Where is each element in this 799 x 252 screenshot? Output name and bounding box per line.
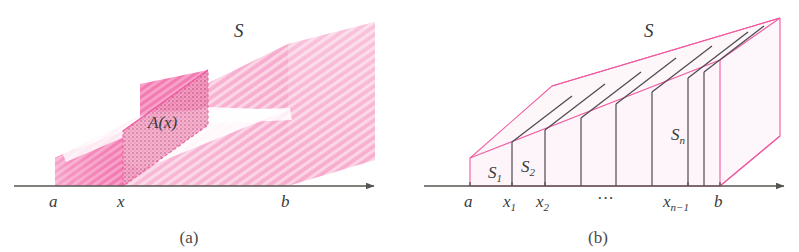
axis-label-x2-b: x2 [535, 192, 550, 213]
panel-a-caption: (a) [180, 228, 199, 247]
panel-a: a x b S A(x) (a) [14, 20, 375, 247]
axis-label-b-b: b [714, 192, 723, 211]
axis-label-b-a: b [281, 192, 290, 211]
axis-label-x-a: x [116, 192, 125, 211]
axis-label-a-a: a [49, 192, 58, 211]
end-face-b-shade [288, 22, 375, 186]
panel-b: S1 S2 Sn a x1 x2 ··· xn−1 b S (b) [424, 18, 784, 247]
cross-section-label-Ax: A(x) [147, 113, 178, 132]
axis-label-x2-sub: 2 [544, 201, 550, 213]
figure-root: a x b S A(x) (a) [0, 0, 799, 252]
slab-label-S1-sub: 1 [497, 172, 503, 184]
solid-label-S-b: S [644, 20, 654, 41]
cross-section-figure: a x b S A(x) (a) [0, 0, 799, 252]
axis-label-xn1-sub: n−1 [671, 201, 689, 213]
axis-label-x1-sub: 1 [511, 201, 517, 213]
solid-body-a [55, 22, 375, 186]
axis-label-xn1-b: xn−1 [662, 192, 689, 213]
panel-b-caption: (b) [588, 228, 608, 247]
solid-label-S-a: S [234, 20, 244, 41]
axis-label-dots-b: ··· [597, 189, 614, 208]
axis-label-x1-b: x1 [502, 192, 516, 213]
axis-label-a-b: a [464, 192, 473, 211]
slab-label-Sn-sub: n [680, 134, 686, 146]
slab-label-S2-sub: 2 [530, 166, 536, 178]
